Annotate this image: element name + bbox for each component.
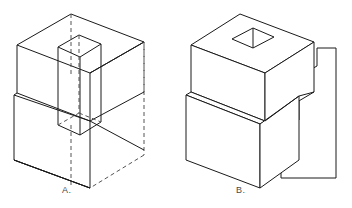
figure-a-label: A. [62, 185, 72, 195]
figure-b-solid-block [186, 14, 314, 188]
figure-b-label: B. [236, 185, 246, 195]
figure-b-drawing [0, 0, 352, 208]
drawing-canvas: A. B. [0, 0, 352, 208]
